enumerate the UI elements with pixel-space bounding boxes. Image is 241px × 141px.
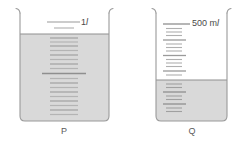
beaker-q-liquid bbox=[156, 80, 227, 121]
beaker-q-right-rim bbox=[227, 9, 231, 14]
beaker-p-left-rim bbox=[16, 9, 20, 14]
beaker-q-left-rim bbox=[152, 9, 156, 14]
beaker-p-right-rim bbox=[109, 9, 113, 14]
beaker-p-scale-unit: l bbox=[86, 17, 88, 27]
beaker-p-group bbox=[16, 9, 113, 122]
beaker-p-scale-label: 1l bbox=[81, 17, 88, 27]
beaker-q-scale-label: 500 ml bbox=[192, 18, 219, 28]
beaker-p-caption: P bbox=[57, 126, 71, 136]
beaker-p-liquid bbox=[20, 34, 109, 121]
beaker-q-scale-value: 500 bbox=[192, 18, 207, 28]
beaker-q-scale-unit: ml bbox=[207, 18, 219, 28]
beaker-q-caption: Q bbox=[185, 126, 199, 136]
